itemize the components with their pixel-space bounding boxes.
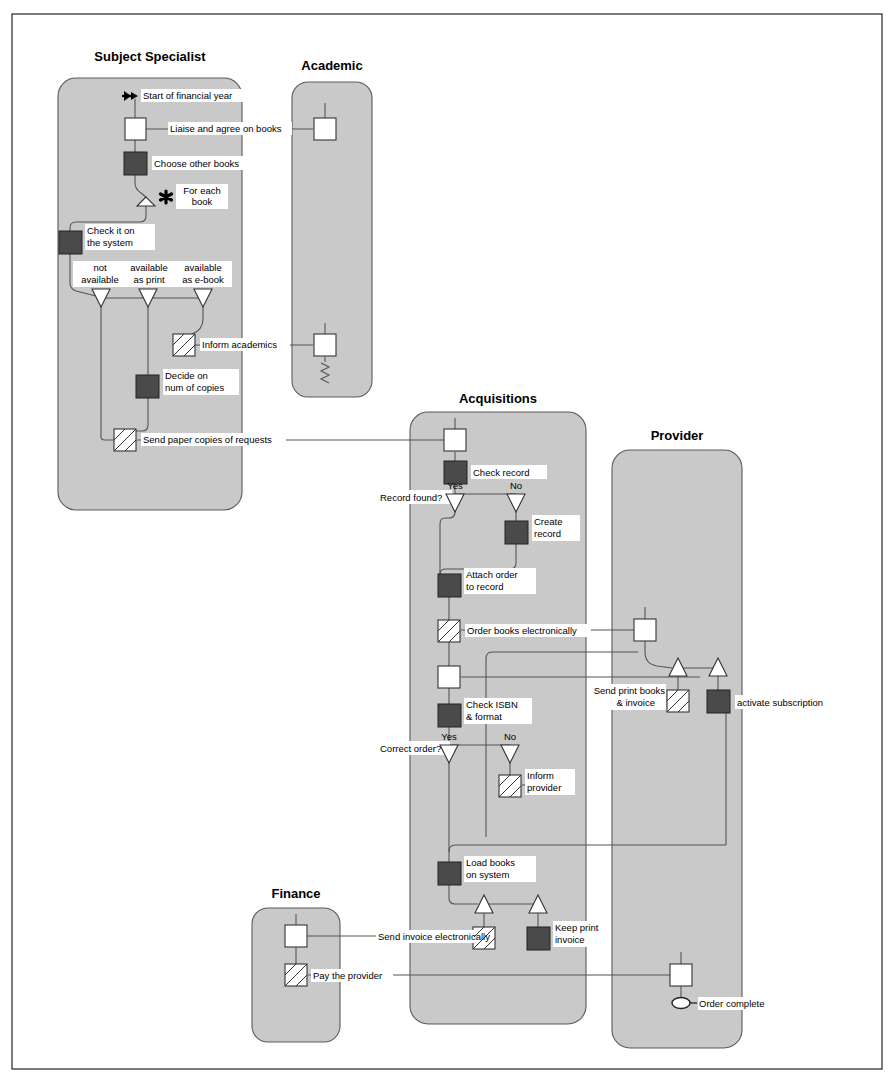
node-send-print-books-and-invoice[interactable] bbox=[667, 690, 689, 712]
label-decide-line2: num of copies bbox=[165, 382, 224, 393]
label-inform-provider-line1: Inform bbox=[527, 770, 554, 781]
label-record-found-group: Record found? bbox=[378, 490, 452, 504]
node-check-it-on-the-system[interactable] bbox=[59, 231, 82, 254]
label-decide-line1: Decide on bbox=[165, 370, 208, 381]
label-send-paper-copies: Send paper copies of requests bbox=[143, 434, 272, 445]
label-choose-other-books: Choose other books bbox=[154, 158, 239, 169]
lane-title-provider: Provider bbox=[651, 428, 704, 443]
node-order-books-electronically[interactable] bbox=[438, 620, 460, 642]
node-keep-print-invoice[interactable] bbox=[527, 927, 550, 950]
label-available-print-group: available as print bbox=[122, 261, 176, 287]
node-create-record[interactable] bbox=[505, 521, 528, 544]
label-keep-print-line1: Keep print bbox=[555, 922, 599, 933]
node-start-of-financial-year[interactable]: Start of financial year bbox=[122, 89, 255, 102]
label-inform-academics: Inform academics bbox=[202, 339, 277, 350]
label-available-ebook-line2: as e-book bbox=[182, 274, 224, 285]
label-order-complete-group: Order complete bbox=[698, 997, 766, 1010]
node-pay-the-provider[interactable] bbox=[285, 964, 307, 986]
label-order-books-group: Order books electronically bbox=[465, 624, 591, 637]
label-yes-record-found: Yes bbox=[447, 480, 463, 491]
label-check-it-on-line1: Check it on bbox=[87, 225, 135, 236]
label-create-record-group: Create record bbox=[532, 515, 580, 541]
label-yes-correct-order: Yes bbox=[441, 731, 457, 742]
label-check-it-on-line2: the system bbox=[87, 237, 133, 248]
label-keep-print-line2: invoice bbox=[555, 934, 585, 945]
node-liaise-white-state[interactable] bbox=[125, 118, 146, 140]
lane-box-provider bbox=[612, 450, 742, 1048]
label-activate-subscription: activate subscription bbox=[737, 697, 823, 708]
node-choose-other-books[interactable] bbox=[124, 152, 147, 175]
label-correct-order: Correct order? bbox=[380, 743, 441, 754]
node-activate-subscription[interactable] bbox=[707, 690, 730, 713]
label-load-books-line2: on system bbox=[466, 869, 509, 880]
label-inform-provider-group: Inform provider bbox=[525, 769, 575, 795]
label-inform-provider-line2: provider bbox=[527, 782, 561, 793]
label-for-each-line1: For each bbox=[183, 185, 221, 196]
label-load-books-group: Load books on system bbox=[464, 856, 536, 882]
label-order-books-electronically: Order books electronically bbox=[467, 625, 577, 636]
label-available-ebook-group: available as e-book bbox=[175, 261, 232, 287]
node-check-isbn-and-format[interactable] bbox=[438, 704, 461, 727]
label-check-isbn-line1: Check ISBN bbox=[466, 699, 518, 710]
label-attach-order-group: Attach order to record bbox=[464, 568, 536, 594]
label-send-invoice-electronically: Send invoice electronically bbox=[378, 931, 490, 942]
node-load-books-on-system[interactable] bbox=[438, 862, 461, 885]
node-inform-academics[interactable] bbox=[173, 334, 195, 356]
label-check-record: Check record bbox=[473, 467, 530, 478]
terminator-ellipse-icon bbox=[672, 998, 690, 1009]
lane-title-subject-specialist: Subject Specialist bbox=[94, 49, 206, 64]
label-send-print-books-group: Send print books & invoice bbox=[592, 684, 666, 710]
node-acq-receive-requests[interactable] bbox=[444, 429, 466, 451]
label-check-isbn-group: Check ISBN & format bbox=[464, 698, 532, 724]
label-available-print-line2: as print bbox=[133, 274, 165, 285]
lane-provider: Provider bbox=[612, 428, 742, 1048]
label-keep-print-group: Keep print invoice bbox=[553, 921, 609, 947]
node-provider-receive-payment[interactable] bbox=[670, 964, 692, 986]
label-liaise-and-agree-on-books: Liaise and agree on books bbox=[170, 123, 282, 134]
label-attach-order-line1: Attach order bbox=[466, 569, 518, 580]
node-provider-receive-order[interactable] bbox=[634, 619, 656, 641]
node-acq-receive-goods[interactable] bbox=[438, 666, 460, 688]
label-check-record-group: Check record bbox=[471, 465, 547, 479]
label-liaise-group: Liaise and agree on books bbox=[168, 122, 292, 135]
diagram-canvas: Subject Specialist Academic Acquisitions… bbox=[0, 0, 894, 1085]
label-available-print-line1: available bbox=[130, 262, 168, 273]
label-record-found: Record found? bbox=[380, 492, 442, 503]
label-no-record-found: No bbox=[510, 480, 522, 491]
label-send-print-books-line1: Send print books bbox=[594, 685, 666, 696]
label-check-system-group: Check it on the system bbox=[85, 224, 155, 250]
label-for-each-line2: book bbox=[192, 196, 213, 207]
label-send-invoice-group: Send invoice electronically bbox=[376, 930, 490, 943]
lane-title-finance: Finance bbox=[271, 886, 320, 901]
label-not-available-group: not available bbox=[73, 261, 127, 287]
label-activate-subscription-group: activate subscription bbox=[735, 695, 831, 709]
label-order-complete: Order complete bbox=[699, 998, 764, 1009]
lane-title-acquisitions: Acquisitions bbox=[459, 391, 537, 406]
role-activity-diagram: Subject Specialist Academic Acquisitions… bbox=[0, 0, 894, 1085]
label-attach-order-line2: to record bbox=[466, 581, 504, 592]
node-finance-receive-invoice[interactable] bbox=[285, 925, 307, 947]
label-correct-order-group: Correct order? bbox=[378, 741, 450, 755]
node-academic-informed-state[interactable] bbox=[314, 334, 336, 356]
lane-title-academic: Academic bbox=[301, 58, 362, 73]
label-send-paper-group: Send paper copies of requests bbox=[141, 433, 286, 446]
node-decide-on-num-of-copies[interactable] bbox=[136, 375, 159, 398]
label-inform-academics-group: Inform academics bbox=[200, 338, 290, 351]
label-pay-the-provider: Pay the provider bbox=[313, 970, 382, 981]
label-create-record-line2: record bbox=[534, 528, 561, 539]
label-decide-group: Decide on num of copies bbox=[163, 369, 239, 395]
label-create-record-line1: Create bbox=[534, 516, 563, 527]
node-attach-order-to-record[interactable] bbox=[438, 574, 461, 597]
label-available-ebook-line1: available bbox=[184, 262, 222, 273]
label-choose-group: Choose other books bbox=[152, 156, 255, 170]
label-pay-the-provider-group: Pay the provider bbox=[311, 969, 393, 982]
label-load-books-line1: Load books bbox=[466, 857, 515, 868]
label-start-of-financial-year: Start of financial year bbox=[143, 90, 232, 101]
node-send-paper-copies[interactable] bbox=[114, 429, 136, 451]
label-for-each-book-group: For each book bbox=[176, 184, 228, 209]
label-not-available-line1: not bbox=[93, 262, 107, 273]
node-inform-provider[interactable] bbox=[499, 775, 521, 797]
node-academic-liaise-state[interactable] bbox=[314, 118, 336, 140]
label-check-isbn-line2: & format bbox=[466, 711, 502, 722]
label-no-correct-order: No bbox=[504, 731, 516, 742]
